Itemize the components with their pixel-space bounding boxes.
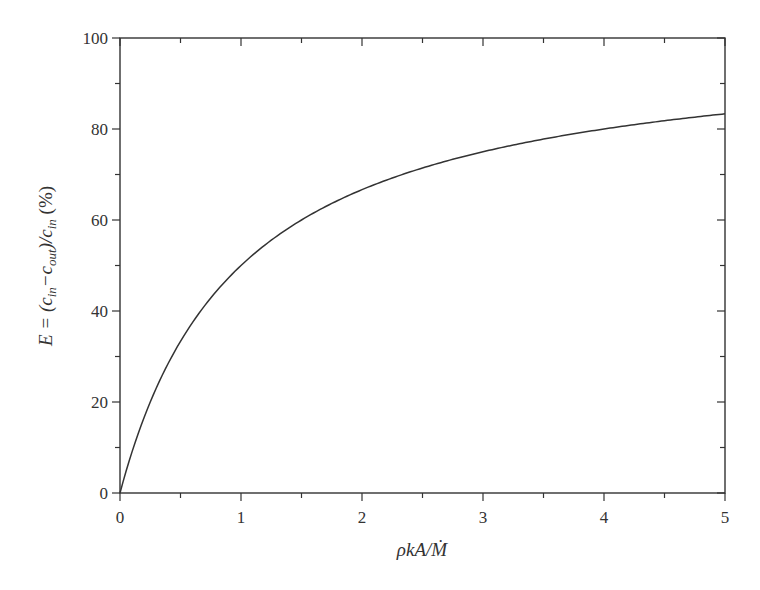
plot-frame <box>120 38 725 493</box>
x-tick-label: 4 <box>600 508 609 527</box>
y-tick-label: 40 <box>91 302 108 321</box>
y-tick-label: 20 <box>91 393 108 412</box>
y-tick-label: 60 <box>91 211 108 230</box>
x-tick-label: 3 <box>479 508 488 527</box>
x-tick-label: 5 <box>721 508 730 527</box>
y-axis-label: E = (cin−cout)/cin (%) <box>35 186 59 347</box>
x-tick-label: 0 <box>116 508 125 527</box>
tick-labels: 012345020406080100 <box>83 29 730 527</box>
x-tick-label: 1 <box>237 508 246 527</box>
y-tick-label: 80 <box>91 120 108 139</box>
data-curve <box>120 114 725 493</box>
y-tick-label: 100 <box>83 29 109 48</box>
x-axis-label: ρkA/Ṁ <box>396 539 448 560</box>
svg-text:E = (cin−cout)/cin (%): E = (cin−cout)/cin (%) <box>35 186 59 347</box>
y-tick-label: 0 <box>100 484 109 503</box>
axis-ticks <box>112 38 725 501</box>
x-tick-label: 2 <box>358 508 367 527</box>
chart: 012345020406080100 ρkA/Ṁ E = (cin−cout)/… <box>0 0 760 590</box>
